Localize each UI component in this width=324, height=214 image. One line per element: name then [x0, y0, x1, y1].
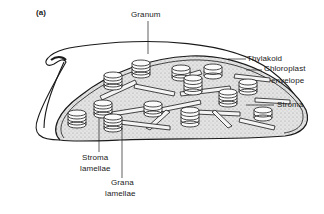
label-thylakoid: Thylakoid	[247, 54, 282, 64]
label-granum: Granum	[131, 10, 161, 20]
granum-stack	[254, 107, 272, 121]
label-stroma: Stroma	[277, 100, 303, 110]
panel-label: (a)	[36, 8, 46, 18]
granum-stack	[132, 60, 150, 78]
chloroplast-diagram: (a) Granum Thylakoid Chloroplast envelop…	[0, 0, 324, 214]
granum-stack	[184, 75, 202, 95]
chloroplast-illustration	[0, 0, 324, 214]
label-grana-lamellae-line2: lamellae	[105, 189, 136, 199]
label-chloroplast-envelope-line1: Chloroplast	[264, 64, 306, 74]
granum-stack	[204, 64, 222, 79]
granum-stack	[219, 89, 237, 107]
granum-stack	[68, 110, 86, 128]
granum-stack	[239, 79, 257, 95]
granum-stack	[144, 101, 162, 117]
label-chloroplast-envelope-line2: envelope	[271, 76, 304, 86]
granum-stack	[104, 72, 122, 90]
granum-stack	[104, 114, 122, 132]
label-stroma-lamellae-line2: lamellae	[80, 164, 111, 174]
label-stroma-lamellae-line1: Stroma	[82, 153, 108, 163]
granum-stack	[181, 107, 199, 127]
label-grana-lamellae-line1: Grana	[111, 178, 134, 188]
